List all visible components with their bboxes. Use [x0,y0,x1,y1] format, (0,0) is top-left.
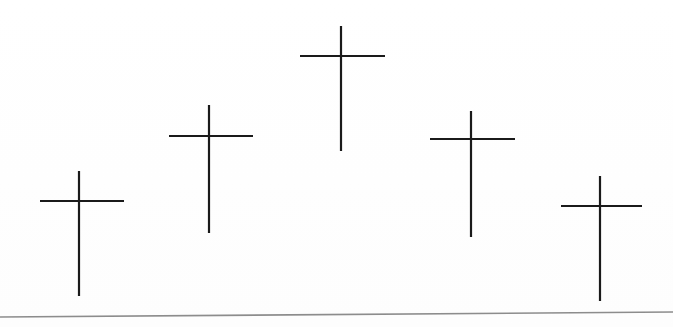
cross-1-far-left-icon [40,171,124,296]
scanned-page: Five Crosses Five hand-drawn Latin cross… [0,0,673,327]
cross-4-right-icon [430,111,515,237]
baseline-rule-group [0,312,673,317]
cross-group [40,26,642,301]
bottom-horizontal-rule [0,312,673,317]
five-crosses-artwork [0,0,673,327]
cross-5-far-right-icon [561,176,642,301]
cross-2-left-icon [169,105,253,233]
cross-3-center-tallest-icon [300,26,385,151]
